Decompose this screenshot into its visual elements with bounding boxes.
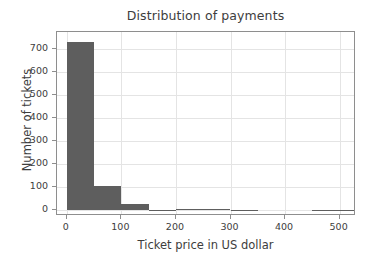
- x-tick-label: 200: [155, 221, 195, 232]
- x-tick-label: 0: [46, 221, 86, 232]
- x-tick-mark: [66, 215, 67, 219]
- gridline-horizontal: [57, 95, 354, 96]
- gridline-vertical: [340, 32, 341, 214]
- histogram-bar: [203, 209, 230, 210]
- histogram-figure: Distribution of payments 010020030040050…: [0, 0, 371, 269]
- y-tick-mark: [52, 71, 56, 72]
- gridline-vertical: [176, 32, 177, 214]
- gridline-vertical: [231, 32, 232, 214]
- x-tick-label: 500: [319, 221, 359, 232]
- histogram-bar: [121, 204, 148, 210]
- histogram-bar: [176, 209, 203, 211]
- y-tick-mark: [52, 48, 56, 49]
- y-tick-mark: [52, 117, 56, 118]
- x-tick-label: 300: [210, 221, 250, 232]
- gridline-horizontal: [57, 164, 354, 165]
- histogram-bar: [231, 210, 258, 211]
- y-axis-label: Number of tickets: [20, 45, 34, 195]
- x-tick-mark: [230, 215, 231, 219]
- gridline-vertical: [285, 32, 286, 214]
- y-tick-label: 0: [14, 203, 48, 214]
- x-tick-label: 400: [264, 221, 304, 232]
- gridline-horizontal: [57, 210, 354, 211]
- y-tick-mark: [52, 163, 56, 164]
- x-tick-mark: [120, 215, 121, 219]
- gridline-vertical: [121, 32, 122, 214]
- histogram-bar: [149, 210, 176, 211]
- y-tick-mark: [52, 140, 56, 141]
- histogram-bar: [94, 186, 121, 210]
- y-tick-mark: [52, 209, 56, 210]
- gridline-horizontal: [57, 72, 354, 73]
- x-tick-mark: [284, 215, 285, 219]
- x-tick-label: 100: [100, 221, 140, 232]
- x-axis-label: Ticket price in US dollar: [56, 238, 355, 252]
- gridline-horizontal: [57, 49, 354, 50]
- gridline-horizontal: [57, 118, 354, 119]
- plot-area: [56, 31, 355, 215]
- gridline-horizontal: [57, 141, 354, 142]
- y-tick-mark: [52, 186, 56, 187]
- chart-title: Distribution of payments: [56, 8, 355, 23]
- x-tick-mark: [175, 215, 176, 219]
- y-tick-mark: [52, 94, 56, 95]
- histogram-bar: [67, 42, 94, 211]
- histogram-bar: [312, 210, 339, 211]
- histogram-bar: [340, 210, 355, 211]
- x-tick-mark: [339, 215, 340, 219]
